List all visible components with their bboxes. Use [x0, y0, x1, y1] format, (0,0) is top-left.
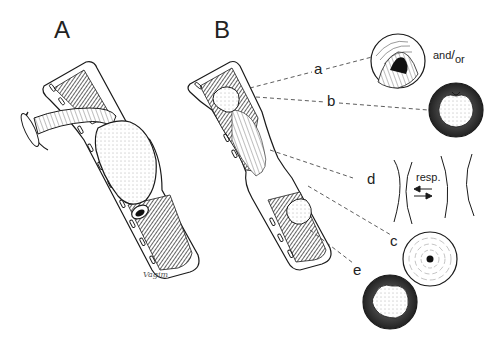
resp-arrows-icon [414, 186, 432, 199]
cross-section-a [371, 34, 425, 88]
panel-label-a: A [54, 18, 70, 42]
and-text: and [433, 49, 451, 61]
callout-label-e: e [353, 262, 361, 277]
respiratory-brackets [394, 154, 474, 224]
leader-b-left [256, 97, 325, 102]
panel-a-trachea [18, 62, 199, 279]
artist-signature: Vagim [143, 271, 168, 279]
panel-b-trachea [188, 62, 331, 271]
callout-label-a: a [314, 61, 322, 76]
callout-label-d: d [367, 171, 375, 186]
panel-label-b: B [214, 18, 230, 42]
leader-b-right [339, 103, 428, 110]
leader-a-left [250, 72, 312, 88]
bracket-inner-right [441, 156, 448, 218]
cross-section-c [403, 232, 457, 286]
callout-label-c: c [390, 233, 398, 248]
leader-c [308, 186, 391, 235]
inflated-cuff [95, 121, 156, 204]
or-text: or [455, 53, 465, 65]
bracket-outer-right [466, 154, 474, 216]
resp-label: resp. [416, 172, 440, 183]
leader-a-right [326, 57, 372, 69]
cross-section-b [429, 83, 483, 137]
callout-label-b: b [327, 93, 335, 108]
cross-section-e [363, 275, 417, 329]
bracket-inner-left [406, 162, 412, 224]
diagram-canvas [0, 0, 497, 340]
and-or-label: and/or [433, 48, 465, 61]
bracket-outer-left [394, 160, 400, 222]
